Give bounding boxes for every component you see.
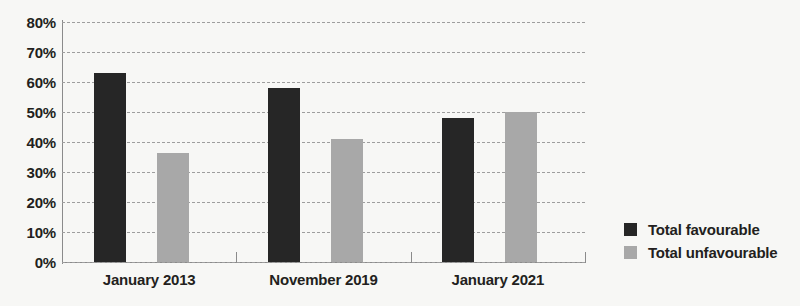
y-axis-tick-label: 80% (4, 15, 56, 30)
bar-chart: 0%10%20%30%40%50%60%70%80% Total favoura… (0, 0, 800, 306)
legend-swatch-icon (624, 223, 637, 236)
gridline (62, 52, 585, 53)
bar-0-1 (268, 88, 300, 262)
legend-label: Total favourable (648, 221, 760, 238)
x-axis-right-tick (585, 252, 586, 263)
x-axis-category-label: January 2013 (62, 272, 236, 287)
x-axis-category-label: November 2019 (236, 272, 410, 287)
legend-item-1[interactable]: Total unfavourable (624, 241, 777, 264)
y-axis-tick-label: 40% (4, 135, 56, 150)
gridline (62, 262, 585, 263)
y-axis-tick-label: 70% (4, 45, 56, 60)
x-axis-category-label: January 2021 (411, 272, 585, 287)
legend-swatch-icon (624, 246, 637, 259)
y-axis-tick-label: 10% (4, 225, 56, 240)
bar-1-0 (157, 153, 189, 263)
x-axis-category-divider (411, 252, 412, 263)
bar-0-0 (94, 73, 126, 262)
bar-1-2 (505, 112, 537, 262)
y-axis-tick-label: 0% (4, 255, 56, 270)
y-axis-tick-label: 50% (4, 105, 56, 120)
chart-legend: Total favourableTotal unfavourable (624, 218, 777, 264)
plot-area (62, 22, 585, 262)
gridline (62, 82, 585, 83)
legend-label: Total unfavourable (648, 244, 777, 261)
y-axis-tick-labels: 0%10%20%30%40%50%60%70%80% (0, 0, 56, 306)
x-axis-category-divider (236, 252, 237, 263)
bar-0-2 (442, 118, 474, 262)
bar-1-1 (331, 139, 363, 262)
gridline (62, 22, 585, 23)
y-axis-tick-label: 60% (4, 75, 56, 90)
legend-item-0[interactable]: Total favourable (624, 218, 777, 241)
y-axis-tick-label: 20% (4, 195, 56, 210)
y-axis-tick-label: 30% (4, 165, 56, 180)
